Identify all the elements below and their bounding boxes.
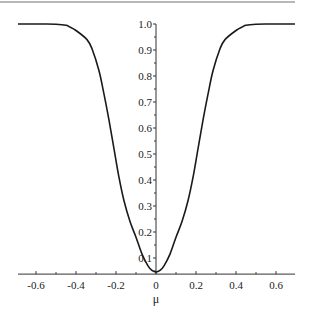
x-tick-label: 0 — [153, 279, 159, 291]
x-tick-label: -0.4 — [67, 279, 85, 291]
y-axis: 0.10.20.30.40.50.60.70.80.91.0 — [138, 18, 156, 274]
y-tick-label: 0.8 — [138, 70, 152, 82]
y-tick-label: 1.0 — [138, 18, 152, 30]
y-tick-label: 0.3 — [138, 200, 152, 212]
x-tick-label: -0.2 — [107, 279, 124, 291]
y-tick-label: 0.9 — [138, 44, 152, 56]
y-tick-label: 0.5 — [138, 148, 152, 160]
x-tick-label: -0.6 — [27, 279, 45, 291]
y-tick-label: 0.6 — [138, 122, 152, 134]
chart: -0.6-0.4-0.200.20.40.6 0.10.20.30.40.50.… — [0, 0, 311, 319]
x-tick-label: 0.2 — [189, 279, 203, 291]
x-tick-label: 0.4 — [229, 279, 243, 291]
x-tick-label: 0.6 — [269, 279, 283, 291]
y-tick-label: 0.2 — [138, 226, 152, 238]
y-tick-label: 0.7 — [138, 96, 152, 108]
y-tick-label: 0.4 — [138, 174, 152, 186]
x-axis-label: μ — [153, 292, 159, 306]
